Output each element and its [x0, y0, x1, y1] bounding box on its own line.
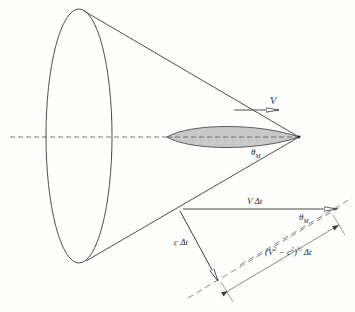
cone-base-ellipse — [46, 9, 112, 263]
cone-apex — [298, 136, 301, 139]
diagram-canvas: V θM V Δt θM c Δt (V2 − c2)½ Δt — [0, 0, 355, 312]
mach-cone-diagram — [0, 0, 355, 312]
velocity-label: V — [270, 96, 276, 106]
distance-label: (V2 − c2)½ Δt — [265, 246, 312, 257]
mach-angle-label-bottom: θM — [299, 213, 308, 224]
dimension-tick-lower — [221, 282, 233, 302]
wavefront-dashed-line-2 — [188, 207, 340, 298]
cone-generator-lower — [86, 137, 299, 261]
mach-angle-label-top: θM — [251, 148, 260, 159]
cone-generator-upper — [84, 11, 299, 137]
v-dt-label: V Δt — [247, 197, 262, 206]
dimension-line — [228, 225, 339, 291]
dimension-tick-upper — [333, 215, 345, 235]
c-dt-label: c Δt — [174, 238, 188, 247]
